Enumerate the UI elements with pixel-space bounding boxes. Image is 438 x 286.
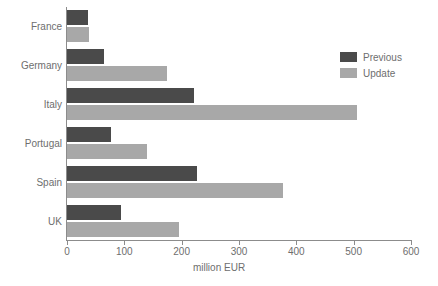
bar-germany-previous (67, 49, 104, 64)
category-label-italy: Italy (44, 99, 62, 110)
legend-swatch-previous-icon (340, 52, 357, 62)
x-tick-600 (411, 240, 412, 245)
legend-item-previous[interactable]: Previous (340, 50, 402, 64)
bar-france-previous (67, 10, 88, 25)
legend-swatch-update-icon (340, 68, 357, 78)
x-tick-label-400: 400 (288, 246, 305, 257)
chart-legend: Previous Update (340, 50, 402, 82)
category-label-uk: UK (48, 215, 62, 226)
legend-item-update[interactable]: Update (340, 66, 402, 80)
x-tick-label-0: 0 (64, 246, 70, 257)
x-tick-100 (124, 240, 125, 245)
bar-france-update (67, 27, 89, 42)
x-tick-label-500: 500 (345, 246, 362, 257)
category-label-france: France (31, 21, 62, 32)
legend-label-previous: Previous (363, 52, 402, 63)
x-tick-label-200: 200 (173, 246, 190, 257)
bar-italy-update (67, 105, 357, 120)
bar-italy-previous (67, 88, 194, 103)
bar-germany-update (67, 66, 167, 81)
x-tick-0 (67, 240, 68, 245)
legend-label-update: Update (363, 68, 395, 79)
x-tick-300 (239, 240, 240, 245)
x-axis-label: million EUR (0, 262, 438, 273)
x-tick-400 (296, 240, 297, 245)
category-label-germany: Germany (21, 60, 62, 71)
x-tick-label-300: 300 (231, 246, 248, 257)
bar-portugal-update (67, 144, 147, 159)
bar-uk-previous (67, 205, 121, 220)
category-label-portugal: Portugal (25, 137, 62, 148)
bar-chart: 0100200300400500600 FranceGermanyItalyPo… (0, 0, 438, 286)
bar-spain-previous (67, 166, 197, 181)
bar-portugal-previous (67, 127, 111, 142)
category-label-spain: Spain (36, 176, 62, 187)
x-tick-label-600: 600 (403, 246, 420, 257)
x-tick-500 (354, 240, 355, 245)
x-tick-label-100: 100 (116, 246, 133, 257)
bar-uk-update (67, 222, 179, 237)
bar-spain-update (67, 183, 283, 198)
x-tick-200 (182, 240, 183, 245)
